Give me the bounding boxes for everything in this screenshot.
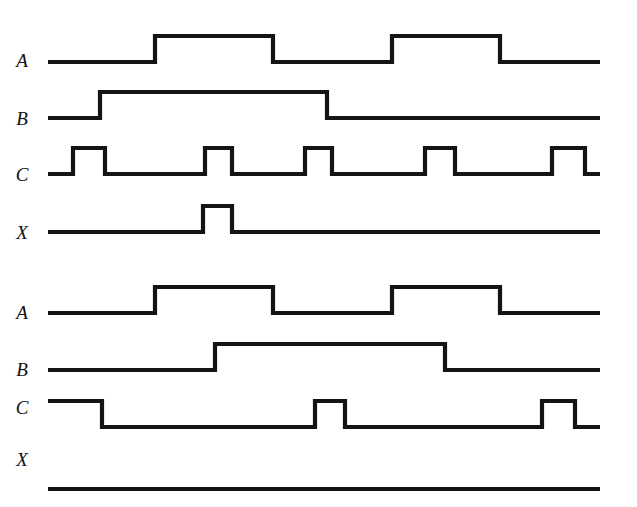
waveform-upper-timing-group-x bbox=[48, 206, 600, 232]
waveform-canvas bbox=[0, 0, 637, 507]
timing-diagram-figure: ABCXABCX bbox=[0, 0, 637, 507]
signal-label-lower-timing-group-x: X bbox=[9, 450, 35, 469]
signal-label-upper-timing-group-a: A bbox=[9, 51, 35, 70]
signal-label-upper-timing-group-c: C bbox=[9, 165, 35, 184]
waveform-upper-timing-group-c bbox=[48, 148, 600, 174]
waveform-upper-timing-group-a bbox=[48, 36, 600, 62]
signal-label-upper-timing-group-x: X bbox=[9, 223, 35, 242]
waveform-lower-timing-group-b bbox=[48, 344, 600, 370]
signal-label-lower-timing-group-b: B bbox=[9, 360, 35, 379]
waveform-lower-timing-group-a bbox=[48, 287, 600, 313]
waveform-upper-timing-group-b bbox=[48, 92, 600, 118]
signal-label-lower-timing-group-c: C bbox=[9, 398, 35, 417]
signal-label-upper-timing-group-b: B bbox=[9, 109, 35, 128]
signal-label-lower-timing-group-a: A bbox=[9, 303, 35, 322]
waveform-lower-timing-group-c bbox=[48, 401, 600, 427]
